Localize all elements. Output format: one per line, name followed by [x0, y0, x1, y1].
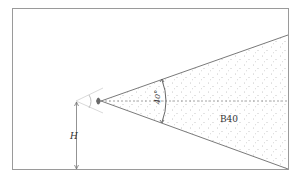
angle-label: 40°	[153, 90, 162, 105]
viewing-cone-region	[101, 35, 288, 169]
eye-icon	[76, 88, 103, 113]
diagram-canvas: 40° B40 H	[0, 0, 298, 185]
height-label: H	[69, 131, 78, 141]
region-label: B40	[220, 114, 238, 124]
